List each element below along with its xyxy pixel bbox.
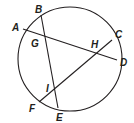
label-a: A [11,22,19,33]
label-e: E [56,112,63,123]
chord-cf [39,40,112,102]
chord-be [41,15,58,108]
label-c: C [115,29,123,40]
label-f: F [29,103,36,114]
label-i: I [46,83,49,94]
label-d: D [120,57,127,68]
label-b: B [35,4,42,15]
circle-chords-diagram: B A G H C D I F E [0,0,134,123]
label-h: H [91,39,99,50]
circle [18,7,122,111]
label-g: G [31,38,39,49]
